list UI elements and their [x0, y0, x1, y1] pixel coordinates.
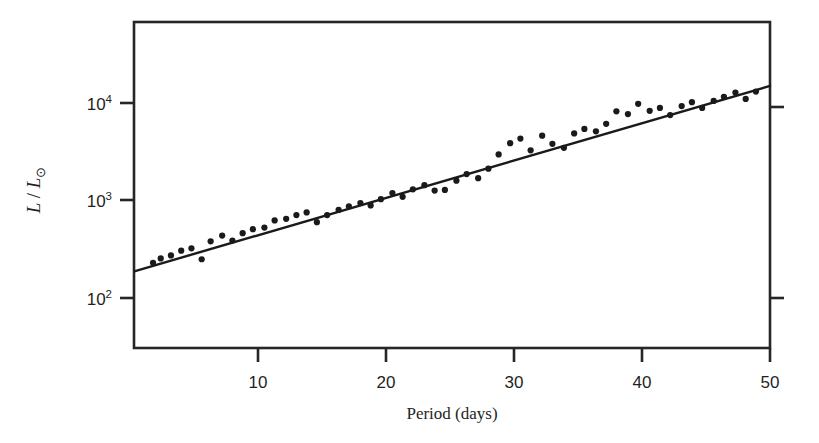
y-tick-mantissa-1e3: 10	[87, 192, 106, 211]
scatter-point	[442, 187, 448, 193]
scatter-point	[721, 94, 727, 100]
scatter-point	[732, 89, 738, 95]
scatter-point	[647, 108, 653, 114]
y-axis-title-denominator: L	[23, 178, 44, 190]
scatter-point	[314, 219, 320, 225]
scatter-point	[421, 182, 427, 188]
y-tick-label-1e3: 103	[87, 190, 112, 211]
y-tick-exponent-1e3: 3	[106, 190, 112, 202]
scatter-point	[625, 111, 631, 117]
scatter-point	[496, 151, 502, 157]
scatter-point	[689, 99, 695, 105]
y-tick-label-1e2: 102	[87, 288, 112, 309]
scatter-point	[549, 141, 555, 147]
scatter-point	[389, 190, 395, 196]
x-tick-label-30: 30	[505, 373, 524, 392]
scatter-point	[464, 171, 470, 177]
x-axis-ticks	[258, 348, 770, 362]
scatter-point	[250, 226, 256, 232]
scatter-point	[432, 187, 438, 193]
scatter-point	[453, 178, 459, 184]
scatter-point	[304, 209, 310, 215]
scatter-point	[272, 217, 278, 223]
y-axis-title: L / L⊙	[23, 167, 48, 215]
scatter-point	[261, 224, 267, 230]
y-axis-ticks	[120, 103, 134, 298]
scatter-point	[743, 96, 749, 102]
scatter-point	[208, 238, 214, 244]
axes-frame-rect	[134, 22, 770, 348]
best-fit-line	[135, 86, 770, 271]
scatter-point	[475, 175, 481, 181]
y-axis-title-sun-subscript: ⊙	[33, 167, 48, 178]
scatter-point	[168, 252, 174, 258]
scatter-point	[336, 207, 342, 213]
scatter-point	[711, 98, 717, 104]
scatter-point	[199, 256, 205, 262]
x-tick-label-10: 10	[249, 373, 268, 392]
scatter-point	[229, 237, 235, 243]
scatter-point	[240, 230, 246, 236]
y-tick-exponent-1e4: 4	[106, 93, 113, 105]
scatter-point	[410, 186, 416, 192]
plot-frame	[134, 22, 770, 348]
x-tick-label-50: 50	[761, 373, 780, 392]
scatter-point	[485, 166, 491, 172]
scatter-point	[593, 128, 599, 134]
scatter-point	[158, 255, 164, 261]
scatter-point	[603, 121, 609, 127]
scatter-point	[188, 245, 194, 251]
scatter-point	[528, 147, 534, 153]
x-tick-label-20: 20	[377, 373, 396, 392]
scatter-point	[699, 105, 705, 111]
scatter-point	[539, 133, 545, 139]
scatter-point	[219, 232, 225, 238]
scatter-point	[679, 103, 685, 109]
y-axis-title-numerator: L	[23, 203, 44, 214]
scatter-point	[613, 108, 619, 114]
scatter-point	[324, 212, 330, 218]
fit-line-group	[135, 86, 770, 271]
scatter-point	[400, 194, 406, 200]
scatter-point	[283, 216, 289, 222]
scatter-point	[178, 248, 184, 254]
scatter-point	[293, 212, 299, 218]
scatter-point	[581, 126, 587, 132]
scatter-point	[368, 202, 374, 208]
scatter-point	[667, 112, 673, 118]
x-axis-title: Period (days)	[406, 404, 497, 423]
scatter-point	[753, 89, 759, 95]
scatter-point	[561, 145, 567, 151]
scatter-point	[635, 101, 641, 107]
scatter-point	[378, 196, 384, 202]
y-tick-mantissa-1e4: 10	[87, 95, 106, 114]
scatter-point	[346, 203, 352, 209]
figure-container: 104 103 102 10 20 30 40 50 Period (days)…	[0, 0, 819, 443]
y-tick-labels: 104 103 102	[87, 93, 113, 309]
x-tick-label-40: 40	[633, 373, 652, 392]
scatter-point	[150, 260, 156, 266]
scatter-point	[517, 135, 523, 141]
y-tick-exponent-1e2: 2	[106, 288, 112, 300]
y-tick-mantissa-1e2: 10	[87, 290, 106, 309]
scatter-point	[571, 130, 577, 136]
y-axis-right-ticks	[770, 107, 784, 298]
scatter-point	[357, 200, 363, 206]
period-luminosity-chart: 104 103 102 10 20 30 40 50 Period (days)…	[0, 0, 819, 443]
scatter-point	[657, 105, 663, 111]
y-tick-label-1e4: 104	[87, 93, 113, 114]
scatter-point	[507, 140, 513, 146]
x-tick-labels: 10 20 30 40 50	[249, 373, 780, 392]
